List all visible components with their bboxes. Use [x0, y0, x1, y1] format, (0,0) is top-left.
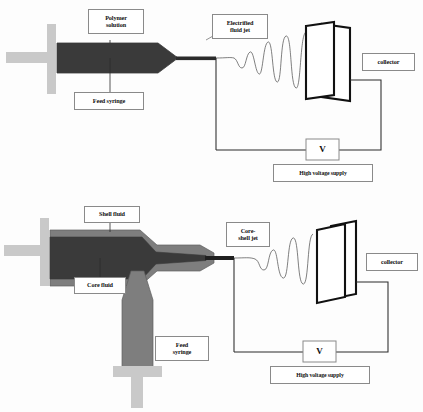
- coax-needle-icon: [205, 256, 234, 260]
- label-core-shell-jet: Core- shell jet: [226, 222, 270, 247]
- plunger-rod-icon: [6, 52, 54, 63]
- label-collector-top: collector: [362, 53, 415, 71]
- vertical-plunger-rod-icon: [131, 370, 143, 408]
- feed-syringe-barrel-icon: [57, 43, 178, 73]
- collector-front-plate-icon: [306, 22, 334, 99]
- label-electrified-fluid-jet: Electrified fluid jet: [212, 14, 268, 39]
- label-voltmeter-top: V: [306, 139, 339, 160]
- label-high-voltage-supply-top: High voltage supply: [273, 164, 373, 182]
- label-feed-syringe-bottom: Feed syringe: [155, 336, 209, 361]
- label-polymer-solution: Polymer solution: [88, 9, 144, 34]
- label-core-fluid: Core fluid: [74, 277, 126, 294]
- figure-canvas: Polymer solution Feed syringe Electrifie…: [0, 0, 423, 412]
- needle-icon: [176, 57, 216, 61]
- coax-circuit-wire-icon: [234, 258, 388, 352]
- label-voltmeter-bottom: V: [303, 341, 336, 362]
- label-shell-fluid: Shell fluid: [84, 206, 140, 223]
- vertical-feed-syringe-icon: [122, 271, 153, 370]
- plunger-flange-icon: [47, 24, 56, 94]
- circuit-wire-icon: [216, 58, 381, 150]
- core-fluid-body-icon: [50, 237, 206, 279]
- label-collector-bottom: collector: [366, 253, 418, 271]
- whipping-jet-icon: [216, 32, 306, 88]
- coax-collector-front-plate-icon: [317, 224, 345, 303]
- electrospinning-schematic: [0, 0, 423, 412]
- label-high-voltage-supply-bottom: High voltage supply: [270, 366, 370, 384]
- coax-plunger-flange-icon: [40, 218, 49, 286]
- label-feed-syringe: Feed syringe: [74, 92, 144, 110]
